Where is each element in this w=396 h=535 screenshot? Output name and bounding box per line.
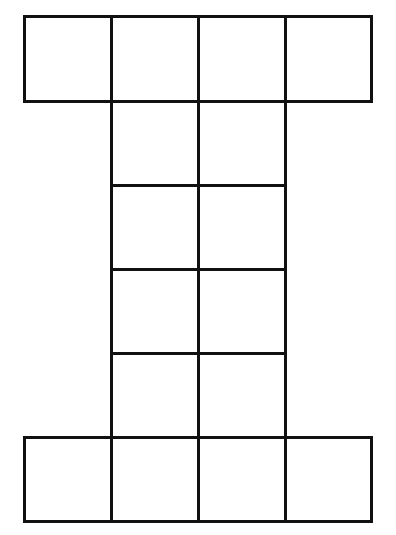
grid-cell: [23, 15, 113, 103]
grid-cell: [197, 15, 287, 103]
grid-cell: [23, 436, 113, 523]
grid-diagram: [0, 0, 396, 535]
grid-cell: [110, 436, 200, 523]
grid-cell: [110, 352, 200, 439]
grid-cell: [284, 15, 373, 103]
grid-cell: [110, 268, 200, 355]
grid-cell: [197, 100, 287, 187]
grid-cell: [284, 436, 373, 523]
grid-cell: [110, 184, 200, 271]
grid-cell: [197, 184, 287, 271]
grid-cell: [110, 100, 200, 187]
grid-cell: [197, 436, 287, 523]
grid-cell: [197, 268, 287, 355]
grid-cell: [110, 15, 200, 103]
grid-cell: [197, 352, 287, 439]
